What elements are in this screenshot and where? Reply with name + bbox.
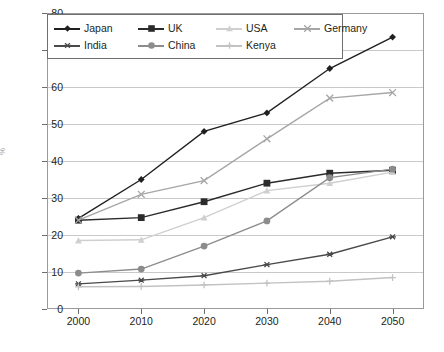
- x-tick-label: 2040: [304, 316, 356, 327]
- y-tick-label: 40: [33, 156, 63, 167]
- y-tick-label: 60: [33, 82, 63, 93]
- x-tick-mark: [78, 309, 79, 314]
- gridline: [48, 198, 423, 199]
- y-tick-label: 30: [33, 193, 63, 204]
- legend-marker-x-icon: [294, 23, 320, 34]
- legend-item-germany[interactable]: Germany: [294, 20, 367, 37]
- x-tick-mark: [141, 309, 142, 314]
- legend-label: UK: [168, 23, 183, 34]
- y-tick-label: 20: [33, 230, 63, 241]
- legend-label: China: [168, 40, 195, 51]
- legend-item-india[interactable]: India: [54, 37, 138, 54]
- legend-label: Germany: [324, 23, 367, 34]
- y-tick-label: 10: [33, 267, 63, 278]
- legend-item-uk[interactable]: UK: [138, 20, 216, 37]
- y-tick-label: 50: [33, 119, 63, 130]
- legend-label: USA: [246, 23, 268, 34]
- legend-marker-plus-icon: [216, 40, 242, 51]
- legend-marker-square-icon: [138, 23, 164, 34]
- legend-item-usa[interactable]: USA: [216, 20, 294, 37]
- legend-label: Japan: [84, 23, 113, 34]
- x-tick-mark: [330, 309, 331, 314]
- legend-marker-asterisk-icon: [54, 40, 80, 51]
- x-tick-label: 2020: [178, 316, 230, 327]
- x-tick-mark: [393, 309, 394, 314]
- chart-legend: JapanUKUSAGermanyIndiaChinaKenya: [47, 14, 343, 59]
- y-axis-title: %: [0, 148, 7, 155]
- x-tick-label: 2050: [367, 316, 419, 327]
- gridline: [48, 235, 423, 236]
- gridline: [48, 87, 423, 88]
- y-tick-label: 0: [33, 304, 63, 315]
- gridline: [48, 272, 423, 273]
- x-tick-label: 2010: [115, 316, 167, 327]
- legend-marker-circle-icon: [138, 40, 164, 51]
- legend-label: Kenya: [246, 40, 276, 51]
- gridline: [48, 161, 423, 162]
- legend-marker-triangle-icon: [216, 23, 242, 34]
- x-tick-mark: [267, 309, 268, 314]
- legend-item-japan[interactable]: Japan: [54, 20, 138, 37]
- x-tick-mark: [204, 309, 205, 314]
- legend-marker-diamond-icon: [54, 23, 80, 34]
- legend-item-china[interactable]: China: [138, 37, 216, 54]
- legend-label: India: [84, 40, 107, 51]
- line-chart: % 01020304050607080 20002010202020302040…: [0, 0, 444, 352]
- x-tick-label: 2000: [52, 316, 104, 327]
- gridline: [48, 124, 423, 125]
- legend-item-kenya[interactable]: Kenya: [216, 37, 294, 54]
- x-tick-label: 2030: [241, 316, 293, 327]
